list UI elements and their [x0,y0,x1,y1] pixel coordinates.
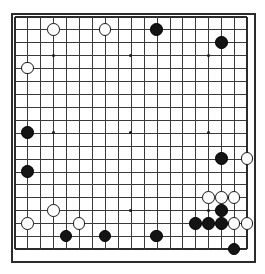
grid-line-vertical-6 [92,17,93,250]
black-stone-R3[interactable] [215,217,228,230]
star-point-4 [129,131,132,134]
white-stone-F3[interactable] [73,217,86,230]
black-stone-B10[interactable] [21,126,34,139]
grid-line-vertical-4 [66,17,67,250]
white-stone-S3[interactable] [228,217,241,230]
board-surface[interactable] [11,13,256,263]
grid-line-vertical-11 [157,17,158,250]
star-point-3 [52,131,55,134]
grid-line-vertical-13 [182,17,183,250]
grid-line-vertical-17 [234,17,235,250]
grid-line-vertical-10 [144,17,145,250]
black-stone-E2[interactable] [60,230,73,243]
star-point-1 [129,54,132,57]
white-stone-D4[interactable] [47,204,60,217]
white-stone-T8[interactable] [241,152,254,165]
star-point-2 [207,54,210,57]
go-board-screenshot [0,0,265,274]
black-stone-Q3[interactable] [202,217,215,230]
black-stone-M2[interactable] [150,230,163,243]
grid-line-vertical-12 [170,17,171,250]
white-stone-Q5[interactable] [202,191,215,204]
grid-line-vertical-7 [105,17,106,250]
black-stone-H2[interactable] [99,230,112,243]
star-point-5 [207,131,210,134]
white-stone-D18[interactable] [47,23,60,36]
grid-line-vertical-0 [14,17,16,250]
white-stone-R5[interactable] [215,191,228,204]
grid-line-vertical-2 [40,17,41,250]
black-stone-R8[interactable] [215,152,228,165]
grid-line-vertical-8 [118,17,119,250]
black-stone-S1[interactable] [228,243,241,256]
black-stone-R17[interactable] [215,36,228,49]
white-stone-B15[interactable] [21,62,34,75]
black-stone-M18[interactable] [150,23,163,36]
white-stone-B3[interactable] [21,217,34,230]
white-stone-S5[interactable] [228,191,241,204]
black-stone-R4[interactable] [215,204,228,217]
grid-line-vertical-14 [195,17,196,250]
grid-line-vertical-5 [79,17,80,250]
black-stone-P3[interactable] [189,217,202,230]
star-point-8 [207,209,210,212]
white-stone-H18[interactable] [99,23,112,36]
star-point-7 [129,209,132,212]
white-stone-T3[interactable] [241,217,254,230]
star-point-0 [52,54,55,57]
grid-line-vertical-18 [246,17,248,250]
black-stone-B7[interactable] [21,165,34,178]
